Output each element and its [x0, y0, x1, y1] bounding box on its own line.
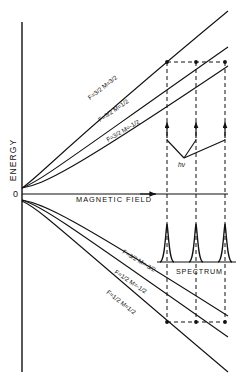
transition-arrows — [167, 122, 225, 138]
breit-rabi-zeeman-diagram: ENERGY 0 MAGNETIC FIELD — [0, 0, 248, 379]
level-curve-l3 — [22, 201, 228, 372]
dot-u-2 — [194, 60, 198, 64]
photon-ray-1 — [167, 140, 184, 158]
dot-u-1 — [165, 60, 169, 64]
x-axis-label: MAGNETIC FIELD — [76, 195, 152, 204]
svg-text:F=1/2 M=1/2: F=1/2 M=1/2 — [105, 288, 137, 315]
svg-text:F=3/2 M=-3/2: F=3/2 M=-3/2 — [121, 248, 157, 273]
level-label-u1: F=3/2 M=3/2 — [86, 73, 118, 100]
lower-dashed-box — [167, 194, 225, 322]
origin-label: 0 — [13, 189, 18, 199]
diagram-canvas: ENERGY 0 MAGNETIC FIELD — [0, 0, 248, 379]
svg-text:F=3/2 M=3/2: F=3/2 M=3/2 — [86, 73, 118, 100]
y-axis-label: ENERGY — [8, 139, 18, 182]
level-label-l1: F=3/2 M=-3/2 — [121, 248, 157, 273]
upper-level-labels: F=3/2 M=3/2 F=3/2 M=1/2 F=3/2 M=-1/2 — [86, 73, 141, 143]
dot-u-3 — [223, 60, 227, 64]
svg-text:F=1/2 M=-1/2: F=1/2 M=-1/2 — [113, 268, 148, 295]
level-curve-u2 — [22, 47, 228, 188]
dot-l-3 — [223, 320, 227, 324]
dot-l-2 — [194, 320, 198, 324]
spectrum-label: SPECTRUM — [176, 267, 223, 276]
level-label-l3: F=1/2 M=1/2 — [105, 288, 137, 315]
lower-level-curves — [22, 200, 228, 372]
level-label-l2: F=1/2 M=-1/2 — [113, 268, 148, 295]
dot-l-1 — [165, 320, 169, 324]
photon-energy-label: hν — [178, 161, 186, 168]
level-curve-l1 — [22, 200, 228, 316]
